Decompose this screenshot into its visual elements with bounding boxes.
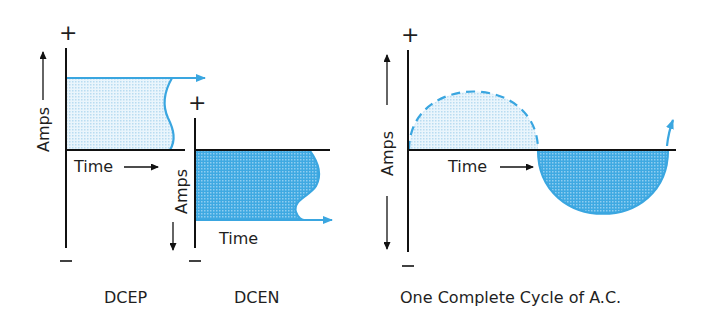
dcep-y-label: Amps (34, 107, 53, 152)
ac-plus-sign: + (401, 22, 419, 47)
ac-x-label: Time (447, 157, 487, 176)
dcen-current-area (196, 151, 319, 220)
ac-y-label: Amps (378, 131, 397, 176)
dcep-current-area (67, 78, 174, 150)
dcen-x-label: Time (218, 229, 258, 248)
dcep-plus-sign: + (59, 20, 77, 45)
ac-positive-half-area (409, 92, 538, 151)
dcen-panel: Amps Time + DCEN (172, 90, 332, 307)
ac-rising-arrow (667, 120, 673, 146)
ac-negative-half-area (538, 150, 668, 214)
dcen-plus-sign: + (188, 90, 206, 115)
dcep-x-label: Time (73, 157, 113, 176)
dcen-caption: DCEN (234, 288, 280, 307)
dcep-caption: DCEP (104, 288, 148, 307)
dcen-y-label: Amps (172, 169, 191, 214)
ac-caption: One Complete Cycle of A.C. (400, 288, 621, 307)
welding-current-diagram: Amps Time + DCEP Amps Time + DCEN (0, 0, 709, 325)
ac-panel: Amps Time + One Complete Cycle of A.C. (378, 22, 676, 307)
dcep-panel: Amps Time + DCEP (34, 20, 205, 307)
